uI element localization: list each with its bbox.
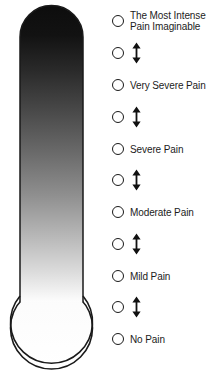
rating-row-gap-4[interactable] [110, 106, 221, 128]
radio-circle-moderate[interactable] [112, 206, 124, 218]
rating-row-gap-1[interactable] [110, 296, 221, 318]
double-arrow-icon [124, 42, 142, 64]
rating-row-mild[interactable]: Mild Pain [110, 265, 221, 287]
pain-rating-list: The Most Intense Pain ImaginableVery Sev… [110, 0, 221, 371]
radio-circle-no-pain[interactable] [112, 333, 124, 345]
radio-circle-severe[interactable] [112, 143, 124, 155]
rating-label-severe: Severe Pain [130, 144, 183, 155]
thermometer-column [20, 6, 83, 303]
radio-circle-most-intense[interactable] [112, 15, 124, 27]
rating-row-very-severe[interactable]: Very Severe Pain [110, 74, 221, 96]
double-arrow-icon [124, 296, 142, 318]
rating-label-no-pain: No Pain [130, 334, 165, 345]
rating-row-gap-5[interactable] [110, 42, 221, 64]
rating-row-most-intense[interactable]: The Most Intense Pain Imaginable [110, 10, 221, 32]
rating-row-gap-3[interactable] [110, 169, 221, 191]
radio-circle-gap-1[interactable] [112, 301, 124, 313]
rating-label-very-severe: Very Severe Pain [130, 80, 206, 91]
rating-label-moderate: Moderate Pain [130, 207, 194, 218]
rating-row-no-pain[interactable]: No Pain [110, 328, 221, 350]
double-arrow-icon [124, 106, 142, 128]
rating-row-gap-2[interactable] [110, 233, 221, 255]
rating-label-mild: Mild Pain [130, 271, 170, 282]
double-arrow-icon [124, 169, 142, 191]
double-arrow-icon [124, 233, 142, 255]
pain-scale-figure: The Most Intense Pain ImaginableVery Sev… [0, 0, 221, 371]
radio-circle-gap-2[interactable] [112, 238, 124, 250]
rating-label-most-intense: The Most Intense Pain Imaginable [130, 10, 206, 33]
pain-thermometer [0, 0, 110, 371]
radio-circle-mild[interactable] [112, 270, 124, 282]
radio-circle-gap-4[interactable] [112, 111, 124, 123]
rating-row-moderate[interactable]: Moderate Pain [110, 201, 221, 223]
radio-circle-gap-3[interactable] [112, 174, 124, 186]
rating-row-severe[interactable]: Severe Pain [110, 138, 221, 160]
radio-circle-gap-5[interactable] [112, 47, 124, 59]
radio-circle-very-severe[interactable] [112, 79, 124, 91]
